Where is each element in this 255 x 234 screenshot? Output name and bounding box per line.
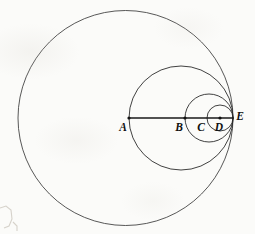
circles-diagram-svg: ABCDE — [0, 0, 255, 234]
points-layer: ABCDE — [118, 110, 244, 133]
point-marker-b — [183, 116, 186, 119]
figure-container: ABCDE — [0, 0, 255, 234]
point-label-b: B — [174, 121, 183, 133]
point-label-a: A — [118, 121, 127, 133]
point-marker-a — [127, 116, 130, 119]
point-marker-d — [218, 116, 221, 119]
point-label-e: E — [235, 110, 244, 122]
point-label-d: D — [214, 121, 224, 133]
scan-artifact — [0, 206, 17, 231]
point-label-c: C — [197, 121, 205, 133]
